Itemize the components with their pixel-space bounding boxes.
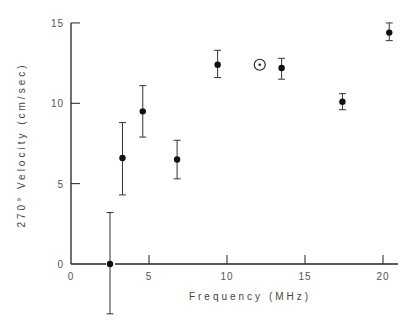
y-tick-label: 0 xyxy=(57,259,64,270)
data-point-marker xyxy=(278,65,284,71)
data-point-marker xyxy=(339,98,345,104)
data-point-marker xyxy=(174,156,180,162)
y-tick-label: 5 xyxy=(57,179,64,190)
y-tick-label: 10 xyxy=(51,98,64,109)
x-tick-label: 15 xyxy=(298,271,311,282)
x-tick-label: 20 xyxy=(376,271,389,282)
y-axis-label: 270° Velocity (cm/sec) xyxy=(16,62,27,227)
scatter-chart: 05101505101520 Frequency (MHz) 270° Velo… xyxy=(0,0,418,328)
x-tick-label: 10 xyxy=(220,271,233,282)
y-tick-label: 15 xyxy=(51,18,64,29)
data-point-marker xyxy=(119,155,125,161)
x-tick-label: 5 xyxy=(146,271,153,282)
data-point-marker xyxy=(140,108,146,114)
x-tick-label: 0 xyxy=(68,271,75,282)
circled-point-center xyxy=(258,63,261,66)
x-axis-label: Frequency (MHz) xyxy=(189,291,311,302)
ticks: 05101505101520 xyxy=(51,18,390,282)
axes xyxy=(71,23,398,264)
data-point-marker xyxy=(214,62,220,68)
data-point-marker xyxy=(386,29,392,35)
data-point-marker xyxy=(107,261,113,267)
